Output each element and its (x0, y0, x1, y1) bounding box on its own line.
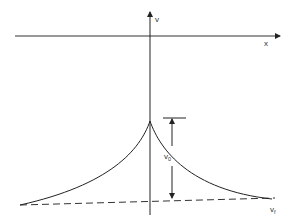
cusp-diagram: x v v0 vf (0, 0, 295, 224)
v0-label: v0 (164, 152, 171, 162)
v-axis-label: v (155, 15, 159, 24)
cusp-curve-left (20, 121, 150, 205)
x-axis-label: x (264, 39, 268, 48)
vf-baseline (20, 198, 275, 205)
vf-label: vf (270, 205, 276, 215)
